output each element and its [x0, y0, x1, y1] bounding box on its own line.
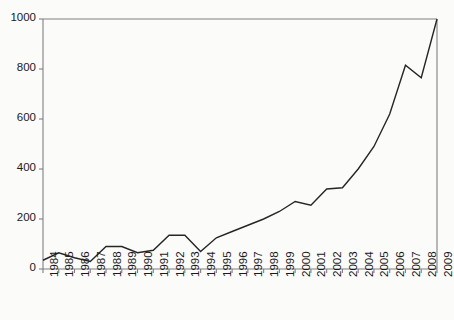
x-tick-label: 1990 — [142, 251, 154, 277]
y-tick-label: 400 — [17, 161, 36, 173]
x-tick-label: 1997 — [252, 251, 264, 277]
y-tick-label: 200 — [17, 211, 36, 223]
x-tick-label: 2007 — [410, 251, 422, 277]
x-tick-label: 1988 — [111, 251, 123, 277]
x-tick-label: 2001 — [315, 251, 327, 277]
x-tick-label: 1996 — [237, 251, 249, 277]
x-tick-label: 1991 — [158, 251, 170, 277]
x-tick-label: 1985 — [63, 251, 75, 277]
x-tick-label: 2004 — [363, 251, 375, 277]
x-tick-label: 2009 — [442, 251, 454, 277]
x-tick-label: 2005 — [378, 251, 390, 277]
x-tick-label: 1987 — [95, 251, 107, 277]
x-tick-label: 2000 — [300, 251, 312, 277]
y-tick-label: 600 — [17, 111, 36, 123]
y-tick-label: 0 — [30, 261, 36, 273]
x-tick-label: 1984 — [48, 251, 60, 277]
x-tick-label: 2003 — [347, 251, 359, 277]
x-tick-label: 2002 — [331, 251, 343, 277]
x-tick-label: 1989 — [126, 251, 138, 277]
x-tick-label: 2008 — [426, 251, 438, 277]
x-tick-label: 1998 — [268, 251, 280, 277]
x-tick-label: 2006 — [394, 251, 406, 277]
x-tick-label: 1994 — [205, 251, 217, 277]
x-tick-label: 1995 — [221, 251, 233, 277]
x-tick-label: 1993 — [189, 251, 201, 277]
x-tick-label: 1999 — [284, 251, 296, 277]
x-tick-label: 1986 — [79, 251, 91, 277]
y-tick-label: 800 — [17, 61, 36, 73]
y-tick-label: 1000 — [10, 11, 36, 23]
x-tick-label: 1992 — [174, 251, 186, 277]
